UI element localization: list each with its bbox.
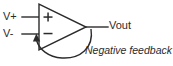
opamp-diagram: V+ V- Vout Negative feedback <box>0 0 173 66</box>
triangle-amplifier-icon <box>39 4 86 50</box>
label-output: Vout <box>109 20 131 31</box>
minus-symbol-icon <box>44 33 53 35</box>
label-inverting-input: V- <box>3 28 13 39</box>
label-non-inverting-input: V+ <box>3 11 17 22</box>
schematic-canvas <box>0 0 173 66</box>
label-negative-feedback: Negative feedback <box>85 45 172 56</box>
